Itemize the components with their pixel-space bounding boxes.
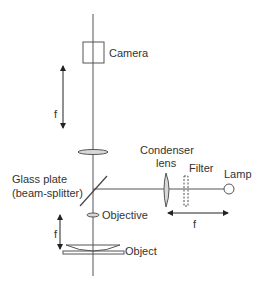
filter-label: Filter — [189, 162, 214, 174]
object-label: Object — [125, 245, 157, 257]
horizontal-focal-label: f — [193, 218, 197, 230]
condenser-label-line1: Condenser — [140, 144, 194, 156]
objective-label: Objective — [102, 209, 148, 221]
tube-lens — [78, 150, 108, 155]
objective-lens — [87, 213, 99, 217]
glass-plate-label-line2: (beam-splitter) — [12, 187, 83, 199]
upper-focal-label: f — [54, 108, 58, 120]
lamp-icon — [224, 184, 234, 194]
condenser-lens — [164, 173, 169, 207]
filter — [184, 176, 188, 206]
microscope-diagram: Camera f Glass plate (beam-splitter) Obj… — [0, 0, 265, 288]
lower-focal-label: f — [54, 228, 58, 240]
camera-label: Camera — [109, 47, 149, 59]
lamp-label: Lamp — [224, 168, 252, 180]
glass-plate-label-line1: Glass plate — [12, 173, 67, 185]
condenser-label-line2: lens — [156, 157, 177, 169]
